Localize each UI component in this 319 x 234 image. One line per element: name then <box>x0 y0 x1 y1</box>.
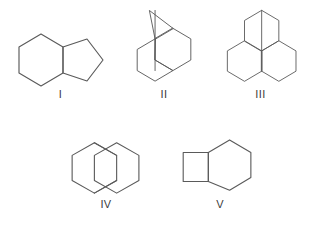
structure-label-V: V <box>173 198 267 210</box>
figure-canvas: I II III IV V <box>0 0 319 234</box>
structure-label-III: III <box>213 88 308 100</box>
structure-III <box>213 8 308 86</box>
six-membered-ring <box>19 34 63 86</box>
six-membered-ring-lower-left <box>227 41 261 82</box>
structure-label-IV: IV <box>59 198 153 210</box>
structure-label-I: I <box>11 88 110 100</box>
six-membered-ring-lower-right <box>262 41 296 82</box>
structure-II <box>126 8 202 86</box>
cyclobutane-ring <box>183 152 208 181</box>
five-membered-ring <box>63 39 103 81</box>
six-membered-ring-right <box>155 28 191 70</box>
structure-I <box>11 26 110 86</box>
structure-IV <box>59 137 153 197</box>
structure-V <box>178 137 258 195</box>
structure-label-II: II <box>126 88 202 100</box>
cyclopropane-ring <box>149 10 173 38</box>
six-membered-ring <box>208 140 251 190</box>
